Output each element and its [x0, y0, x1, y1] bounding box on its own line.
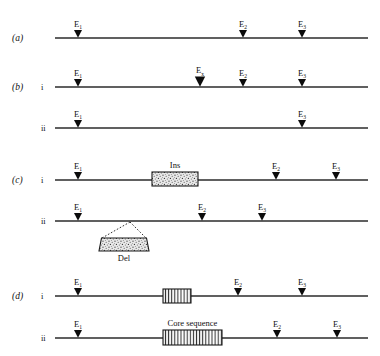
ins-box-label: Ins	[170, 160, 180, 170]
site-label-E2: E2	[239, 19, 247, 30]
site-label-subscript: 1	[79, 114, 82, 120]
site-label-E3: E3	[298, 277, 306, 288]
restriction-site-marker	[258, 213, 266, 221]
site-label-E1: E1	[74, 19, 82, 30]
restriction-site-marker	[74, 213, 82, 221]
panel-label: (b)	[12, 82, 23, 93]
restriction-site-marker	[298, 79, 306, 87]
ins-box	[152, 172, 198, 186]
restriction-site-marker	[234, 288, 242, 296]
deletion-guide-right	[130, 222, 146, 238]
core-box-large	[163, 330, 222, 345]
site-label-subscript: 1	[79, 282, 82, 288]
site-label-subscript: 2	[244, 73, 247, 79]
row-b-ii: iiE1E3	[41, 109, 368, 133]
core-box-large-label: Core sequence	[168, 318, 218, 328]
site-label-subscript: 2	[203, 207, 206, 213]
row-b-i: (b)iE1ExE2E3	[12, 65, 368, 93]
site-label-E3: E3	[298, 19, 306, 30]
panel-label: (d)	[12, 291, 23, 302]
site-label-E2: E2	[234, 277, 242, 288]
restriction-map-figure: (a)E1E2E3(b)iE1ExE2E3iiE1E3(c)iInsE1E2E3…	[0, 0, 380, 356]
site-label-E1: E1	[74, 109, 82, 120]
row-c-i: (c)iInsE1E2E3	[12, 160, 368, 186]
site-label-E3: E3	[298, 68, 306, 79]
site-label-E1: E1	[74, 319, 82, 330]
restriction-site-marker	[273, 330, 281, 338]
restriction-site-marker	[272, 172, 280, 180]
row-d-ii: iiCore sequenceE1E2E3	[41, 318, 368, 345]
panel-label: (c)	[12, 175, 23, 186]
restriction-site-marker	[333, 330, 341, 338]
del-box	[99, 238, 149, 251]
site-label-E3: E3	[332, 161, 340, 172]
site-label-subscript: 3	[338, 324, 341, 330]
restriction-site-marker	[198, 213, 206, 221]
core-box-small	[163, 289, 191, 303]
site-label-E1: E1	[74, 161, 82, 172]
site-label-E2: E2	[198, 202, 206, 213]
site-label-subscript: 2	[244, 24, 247, 30]
restriction-site-marker	[74, 120, 82, 128]
row-sublabel: ii	[41, 333, 46, 343]
site-label-subscript: 1	[79, 324, 82, 330]
site-label-subscript: 3	[303, 24, 306, 30]
site-label-Ex: Ex	[196, 65, 204, 76]
row-c-ii: iiDelE1E2E3	[41, 202, 368, 263]
site-label-subscript: 2	[278, 324, 281, 330]
site-label-subscript: 3	[337, 166, 340, 172]
site-label-subscript: 1	[79, 166, 82, 172]
restriction-site-marker	[74, 30, 82, 38]
row-sublabel: ii	[41, 123, 46, 133]
site-label-subscript: 3	[303, 73, 306, 79]
site-label-E3: E3	[258, 202, 266, 213]
restriction-site-marker	[298, 120, 306, 128]
restriction-site-marker	[74, 330, 82, 338]
restriction-site-marker	[239, 30, 247, 38]
site-label-subscript: 1	[79, 207, 82, 213]
restriction-site-marker	[74, 172, 82, 180]
restriction-site-marker	[195, 77, 205, 87]
restriction-site-marker	[74, 79, 82, 87]
site-label-E2: E2	[272, 161, 280, 172]
site-label-E2: E2	[239, 68, 247, 79]
site-label-E1: E1	[74, 202, 82, 213]
site-label-subscript: 3	[303, 282, 306, 288]
restriction-site-marker	[298, 30, 306, 38]
deletion-guide-left	[102, 222, 130, 238]
site-label-E3: E3	[298, 109, 306, 120]
site-label-subscript: 3	[303, 114, 306, 120]
restriction-site-marker	[332, 172, 340, 180]
panel-label: (a)	[12, 33, 23, 44]
site-label-E3: E3	[333, 319, 341, 330]
row-sublabel: i	[41, 82, 44, 92]
site-label-E1: E1	[74, 277, 82, 288]
figure-canvas: (a)E1E2E3(b)iE1ExE2E3iiE1E3(c)iInsE1E2E3…	[0, 0, 380, 356]
site-label-subscript: 2	[277, 166, 280, 172]
site-label-subscript: x	[201, 71, 204, 77]
row-sublabel: i	[41, 175, 44, 185]
restriction-site-marker	[239, 79, 247, 87]
site-label-subscript: 3	[263, 207, 266, 213]
restriction-site-marker	[298, 288, 306, 296]
site-label-subscript: 1	[79, 73, 82, 79]
row-sublabel: ii	[41, 216, 46, 226]
row-a: (a)E1E2E3	[12, 19, 368, 44]
del-box-label: Del	[118, 253, 131, 263]
row-sublabel: i	[41, 291, 44, 301]
row-d-i: (d)iE1E2E3	[12, 277, 368, 303]
restriction-site-marker	[74, 288, 82, 296]
site-label-E1: E1	[74, 68, 82, 79]
site-label-subscript: 2	[239, 282, 242, 288]
site-label-E2: E2	[273, 319, 281, 330]
site-label-subscript: 1	[79, 24, 82, 30]
